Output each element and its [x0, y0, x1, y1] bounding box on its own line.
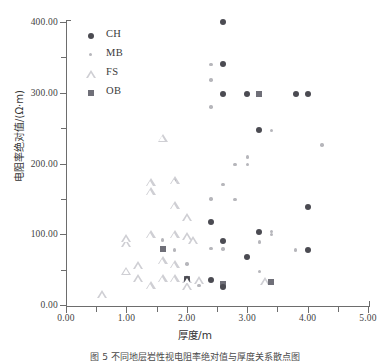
data-point-fs — [146, 230, 156, 238]
data-point-mb — [270, 233, 273, 236]
x-axis-right-cap — [369, 301, 370, 307]
data-point-mb — [258, 270, 261, 273]
x-tick-minor — [217, 307, 218, 312]
data-point-fs — [182, 213, 192, 221]
x-axis-title: 厚度/m — [0, 327, 390, 342]
data-point-mb — [161, 238, 164, 241]
x-tick-minor — [277, 307, 278, 312]
data-point-fs — [170, 176, 180, 184]
x-tick-label: 4.00 — [285, 313, 331, 323]
x-tick-label: 1.00 — [103, 313, 149, 323]
data-point-fs — [97, 290, 107, 298]
data-point-mb — [173, 248, 176, 251]
y-axis-top-cap — [66, 20, 71, 21]
x-tick-label: 3.00 — [224, 313, 270, 323]
figure-container: 0.00100.00200.00300.00400.00 0.001.002.0… — [0, 0, 390, 362]
data-point-ch — [293, 91, 299, 97]
data-point-ch — [208, 219, 214, 225]
y-tick — [60, 305, 66, 306]
y-tick-label: 0.00 — [0, 300, 58, 310]
data-point-mb — [233, 198, 236, 201]
data-point-fs — [146, 178, 156, 186]
plot-area — [66, 22, 368, 305]
data-point-ch — [305, 204, 311, 210]
x-axis-line — [66, 306, 370, 307]
data-point-fs — [170, 201, 180, 209]
data-point-ch — [244, 91, 250, 97]
data-point-ch — [220, 19, 226, 25]
data-point-ch — [305, 91, 311, 97]
data-point-ch — [220, 238, 226, 244]
data-point-mb — [209, 247, 212, 250]
data-point-ch — [256, 127, 262, 133]
data-point-ob — [256, 91, 262, 97]
data-point-mb — [246, 155, 249, 158]
data-point-fs — [133, 261, 143, 269]
y-tick-label: 200.00 — [0, 159, 58, 169]
y-axis-title: 电阻率绝对值/(Ω·m) — [14, 51, 26, 221]
data-point-fs — [182, 282, 192, 290]
data-point-mb — [209, 78, 212, 81]
data-point-ch — [244, 254, 250, 260]
data-point-mb — [270, 129, 273, 132]
x-tick-minor — [157, 307, 158, 312]
x-tick-minor — [96, 307, 97, 312]
data-point-mb — [258, 240, 261, 243]
data-point-mb — [233, 163, 236, 166]
data-point-fs — [133, 274, 143, 282]
data-point-ch — [208, 277, 214, 283]
data-point-mb — [209, 63, 212, 66]
x-tick-label: 5.00 — [345, 313, 390, 323]
y-tick-label: 300.00 — [0, 88, 58, 98]
data-point-mb — [185, 262, 188, 265]
data-point-fs — [158, 256, 168, 264]
data-point-mb — [209, 105, 212, 108]
data-point-fs — [121, 267, 131, 275]
data-point-ch — [220, 61, 226, 67]
data-point-mb — [221, 183, 224, 186]
data-point-mb — [294, 248, 297, 251]
data-point-fs — [146, 281, 156, 289]
data-point-fs — [170, 260, 180, 268]
x-tick-label: 2.00 — [164, 313, 210, 323]
data-point-mb — [320, 143, 323, 146]
data-point-ch — [256, 229, 262, 235]
data-point-ch — [220, 91, 226, 97]
x-tick-minor — [338, 307, 339, 312]
data-point-fs — [170, 274, 180, 282]
data-point-fs — [146, 187, 156, 195]
y-tick-label: 400.00 — [0, 17, 58, 27]
data-point-fs — [158, 134, 168, 142]
data-point-mb — [246, 163, 249, 166]
y-tick-label: 100.00 — [0, 229, 58, 239]
data-point-mb — [197, 284, 200, 287]
data-point-ob — [268, 279, 274, 285]
x-tick-label: 0.00 — [43, 313, 89, 323]
data-point-mb — [209, 197, 212, 200]
data-point-fs — [170, 230, 180, 238]
data-point-ch — [305, 247, 311, 253]
data-point-ob — [160, 246, 166, 252]
data-point-fs — [194, 276, 204, 284]
data-point-mb — [221, 247, 224, 250]
data-point-ch — [220, 284, 226, 290]
data-point-fs — [158, 274, 168, 282]
figure-caption: 图 5 不同地层岩性视电阻率绝对值与厚度关系散点图 — [0, 350, 390, 362]
